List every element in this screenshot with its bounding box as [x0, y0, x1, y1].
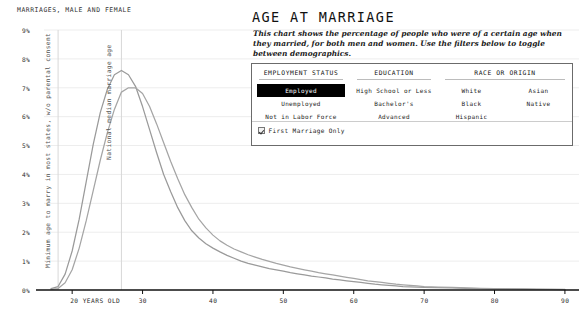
filter-panel: EMPLOYMENT STATUS Employed Unemployed No…	[251, 63, 573, 146]
filter-header-rule	[259, 79, 343, 80]
x-axis-tick-label: 40	[209, 297, 217, 304]
y-axis-tick-label: 5%	[14, 142, 30, 149]
y-axis-tick-label: 3%	[14, 200, 30, 207]
filter-header-employment: EMPLOYMENT STATUS	[252, 69, 350, 79]
first-marriage-only-label: First Marriage Only	[269, 127, 345, 134]
x-axis-tick-label: 90	[561, 297, 569, 304]
y-axis-tick-label: 4%	[14, 171, 30, 178]
page-subtitle: This chart shows the percentage of peopl…	[253, 29, 568, 59]
panel-divider	[252, 121, 572, 122]
page-title: AGE AT MARRIAGE	[252, 9, 395, 25]
chart-header: MARRIAGES, MALE AND FEMALE	[17, 6, 131, 14]
filter-group-employment: EMPLOYMENT STATUS Employed Unemployed No…	[252, 64, 350, 124]
x-axis-tick-label: 80	[491, 297, 499, 304]
first-marriage-only-toggle[interactable]: First Marriage Only	[258, 127, 345, 134]
annotation-median-age: National median marriage age	[105, 44, 112, 160]
checkbox-checked-icon[interactable]	[258, 127, 265, 134]
x-axis-tick-label: 70	[420, 297, 428, 304]
annotation-minimum-age: Minimum age to marry in most states, w/o…	[44, 33, 51, 268]
filter-option-white[interactable]: White	[438, 84, 505, 97]
filter-header-education: EDUCATION	[350, 69, 438, 79]
y-axis-tick-label: 1%	[14, 258, 30, 265]
y-axis-tick-label: 7%	[14, 85, 30, 92]
filter-group-race: RACE OR ORIGIN White Black Hispanic Asia…	[438, 64, 572, 124]
filter-header-rule	[445, 79, 565, 80]
filter-option-high-school-or-less[interactable]: High School or Less	[350, 84, 438, 97]
x-axis-tick-label: 20 YEARS OLD	[70, 297, 120, 304]
chart-page: MARRIAGES, MALE AND FEMALE Minimum age t…	[0, 0, 585, 333]
y-axis-tick-label: 9%	[14, 27, 30, 34]
filter-option-employed[interactable]: Employed	[257, 84, 345, 97]
y-axis-tick-label: 0%	[14, 287, 30, 294]
x-axis-tick-label: 50	[279, 297, 287, 304]
filter-header-rule	[357, 79, 431, 80]
filter-header-race: RACE OR ORIGIN	[438, 69, 572, 79]
y-axis-tick-label: 8%	[14, 56, 30, 63]
filter-group-education: EDUCATION High School or Less Bachelor's…	[350, 64, 438, 124]
filter-option-bachelors[interactable]: Bachelor's	[350, 97, 438, 110]
y-axis-tick-label: 6%	[14, 113, 30, 120]
filter-option-native[interactable]: Native	[505, 97, 572, 110]
filter-option-black[interactable]: Black	[438, 97, 505, 110]
x-axis-tick-label: 60	[350, 297, 358, 304]
x-axis-tick-label: 30	[139, 297, 147, 304]
filter-option-unemployed[interactable]: Unemployed	[252, 97, 350, 110]
filter-option-asian[interactable]: Asian	[505, 84, 572, 97]
y-axis-tick-label: 2%	[14, 229, 30, 236]
